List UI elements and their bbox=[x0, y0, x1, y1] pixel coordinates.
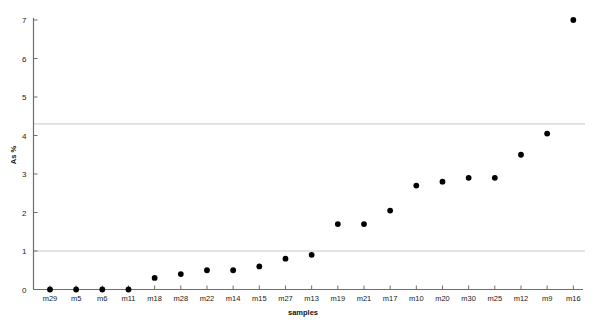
reference-lines-group bbox=[34, 124, 586, 251]
y-tick-label: 7 bbox=[22, 16, 27, 25]
y-tick-label: 2 bbox=[22, 209, 27, 218]
data-point bbox=[570, 17, 576, 23]
x-tick-label: m30 bbox=[461, 294, 476, 303]
x-axis-title: samples bbox=[288, 308, 318, 317]
data-point bbox=[309, 252, 315, 258]
y-axis-title: As % bbox=[9, 146, 18, 165]
data-point bbox=[204, 267, 210, 273]
data-point bbox=[126, 287, 132, 293]
x-tick-label: m9 bbox=[542, 294, 552, 303]
x-tick-label: m10 bbox=[409, 294, 424, 303]
scatter-plot: 01234567 m29m5m6m11m18m28m22m14m15m27m13… bbox=[0, 0, 606, 329]
x-tick-label: m19 bbox=[331, 294, 346, 303]
x-tick-label: m16 bbox=[566, 294, 581, 303]
y-tick-label: 3 bbox=[22, 170, 27, 179]
data-point bbox=[413, 183, 419, 189]
data-point bbox=[466, 175, 472, 181]
data-point bbox=[492, 175, 498, 181]
data-point bbox=[73, 287, 79, 293]
chart-container: 01234567 m29m5m6m11m18m28m22m14m15m27m13… bbox=[0, 0, 606, 329]
data-point bbox=[361, 221, 367, 227]
x-tick-label: m17 bbox=[383, 294, 398, 303]
data-point bbox=[178, 271, 184, 277]
x-tick-label: m27 bbox=[278, 294, 293, 303]
x-tick-label: m22 bbox=[200, 294, 215, 303]
data-point bbox=[387, 208, 393, 214]
y-ticks-group: 01234567 bbox=[22, 16, 37, 295]
x-ticks-group: m29m5m6m11m18m28m22m14m15m27m13m19m21m17… bbox=[43, 286, 581, 303]
data-point bbox=[256, 264, 262, 270]
x-tick-label: m28 bbox=[174, 294, 189, 303]
y-tick-label: 1 bbox=[22, 247, 27, 256]
x-tick-label: m5 bbox=[71, 294, 81, 303]
x-tick-label: m20 bbox=[435, 294, 450, 303]
x-tick-label: m15 bbox=[252, 294, 267, 303]
x-tick-label: m11 bbox=[121, 294, 135, 303]
x-tick-label: m25 bbox=[488, 294, 503, 303]
axes-group bbox=[34, 18, 584, 290]
data-point bbox=[47, 287, 53, 293]
x-tick-label: m12 bbox=[514, 294, 529, 303]
data-point bbox=[544, 131, 550, 137]
y-tick-label: 0 bbox=[22, 286, 27, 295]
x-tick-label: m21 bbox=[357, 294, 372, 303]
data-point bbox=[152, 275, 158, 281]
data-point bbox=[335, 221, 341, 227]
x-tick-label: m18 bbox=[147, 294, 162, 303]
y-tick-label: 4 bbox=[22, 132, 27, 141]
y-tick-label: 6 bbox=[22, 55, 27, 64]
y-tick-label: 5 bbox=[22, 93, 27, 102]
data-point bbox=[99, 287, 105, 293]
data-point bbox=[283, 256, 289, 262]
data-point bbox=[230, 267, 236, 273]
x-tick-label: m29 bbox=[43, 294, 58, 303]
x-tick-label: m14 bbox=[226, 294, 241, 303]
data-point bbox=[440, 179, 446, 185]
x-tick-label: m6 bbox=[97, 294, 107, 303]
x-tick-label: m13 bbox=[304, 294, 319, 303]
data-point bbox=[518, 152, 524, 158]
